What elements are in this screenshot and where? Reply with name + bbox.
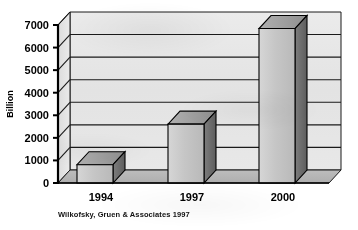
x-tick-label-2000: 2000 <box>271 191 295 203</box>
bar-1994 <box>77 152 125 183</box>
y-tick-label: 1000 <box>25 154 49 166</box>
y-tick-label: 2000 <box>25 132 49 144</box>
y-tick-label: 4000 <box>25 87 49 99</box>
y-axis-title-text: Billion <box>5 90 15 118</box>
bar-1997 <box>168 111 216 183</box>
y-tick-label: 0 <box>43 177 49 189</box>
bar-chart: 7000 6000 5000 4000 3000 2000 1000 0 Bil… <box>0 0 358 230</box>
plot-left-wall <box>58 12 70 183</box>
y-tick-label: 6000 <box>25 42 49 54</box>
y-tick-label: 5000 <box>25 64 49 76</box>
chart-figure: 7000 6000 5000 4000 3000 2000 1000 0 Bil… <box>0 0 358 230</box>
y-tick-label: 7000 <box>25 19 49 31</box>
x-tick-label-1997: 1997 <box>180 191 204 203</box>
source-caption: Wilkofsky, Gruen & Associates 1997 <box>58 210 190 219</box>
x-tick-label-1994: 1994 <box>89 191 114 203</box>
y-axis-title: Billion <box>5 90 15 118</box>
y-axis-tick-labels: 7000 6000 5000 4000 3000 2000 1000 0 <box>25 19 49 189</box>
x-axis-tick-labels: 1994 1997 2000 <box>89 191 295 203</box>
y-tick-label: 3000 <box>25 109 49 121</box>
bar-2000 <box>259 16 307 183</box>
